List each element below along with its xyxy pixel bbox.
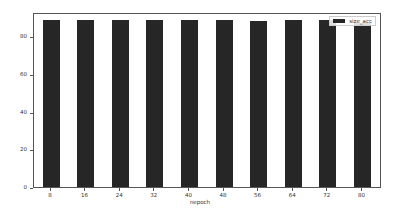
bar bbox=[43, 20, 60, 187]
bar bbox=[319, 20, 336, 187]
bar bbox=[354, 23, 371, 187]
legend: size_acc bbox=[329, 16, 376, 26]
y-tick: 80 bbox=[0, 32, 33, 42]
y-tick: 0 bbox=[0, 183, 33, 193]
bar bbox=[146, 20, 163, 187]
bar bbox=[112, 20, 129, 187]
y-tick: 20 bbox=[0, 145, 33, 155]
bar bbox=[77, 20, 94, 187]
x-tick: 8 bbox=[40, 188, 60, 198]
x-tick: 40 bbox=[178, 188, 198, 198]
x-tick: 32 bbox=[144, 188, 164, 198]
x-tick: 56 bbox=[248, 188, 268, 198]
x-tick: 72 bbox=[317, 188, 337, 198]
legend-label: size_acc bbox=[349, 18, 372, 24]
bar bbox=[216, 20, 233, 187]
x-tick: 64 bbox=[282, 188, 302, 198]
x-axis-label: nepoch bbox=[0, 199, 400, 205]
bar bbox=[181, 20, 198, 187]
y-tick: 40 bbox=[0, 108, 33, 118]
plot-area: size_acc bbox=[33, 13, 381, 188]
y-tick: 60 bbox=[0, 70, 33, 80]
x-tick: 24 bbox=[109, 188, 129, 198]
bar bbox=[285, 20, 302, 187]
x-tick: 48 bbox=[213, 188, 233, 198]
x-tick: 16 bbox=[75, 188, 95, 198]
bar bbox=[250, 21, 267, 187]
x-tick: 80 bbox=[351, 188, 371, 198]
legend-swatch bbox=[333, 19, 345, 23]
